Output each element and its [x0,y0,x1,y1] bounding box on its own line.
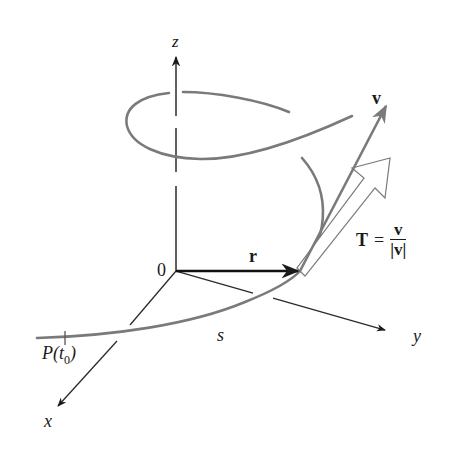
T-formula: T = v |v| [356,222,406,259]
T-symbol: T [356,230,368,251]
space-curve [37,92,352,338]
y-axis-label: y [413,327,421,345]
numerator: v [392,222,405,238]
v-label: v [372,89,381,107]
x-axis-label: x [44,412,52,430]
fraction: v |v| [390,222,406,259]
denominator: |v| [390,241,406,259]
arc-length-label: s [217,326,224,344]
equals-sign: = [374,230,384,251]
x-axis [58,271,176,406]
origin-label: 0 [157,261,166,279]
start-point-close: ) [70,343,76,363]
start-point-name: P(t [42,343,64,363]
y-axis [176,271,385,330]
start-point-label: P(t0) [42,344,76,366]
tangent-vector-diagram: z y x 0 r v T = v |v| s P(t0) [0,0,450,451]
r-label: r [249,247,257,265]
z-axis-label: z [172,33,179,50]
